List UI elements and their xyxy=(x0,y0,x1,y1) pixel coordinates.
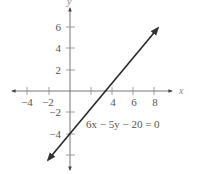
x-tick-label: 6 xyxy=(131,96,137,108)
y-axis-label: y xyxy=(66,0,72,7)
y-axis: 6 4 2 −2 −4 y xyxy=(49,0,75,170)
x-tick-label: 8 xyxy=(152,96,158,108)
y-tick-label: 6 xyxy=(56,21,62,33)
line-graph: −4 −2 4 6 8 x 6 4 2 −2 −4 y 6x − 5y − 20… xyxy=(0,0,198,174)
y-tick-label: −2 xyxy=(49,106,61,118)
y-tick-label: −4 xyxy=(49,128,61,140)
plotted-line xyxy=(48,28,158,160)
y-tick-label: 2 xyxy=(56,64,62,76)
x-axis: −4 −2 4 6 8 x xyxy=(12,85,184,108)
equation-label: 6x − 5y − 20 = 0 xyxy=(86,118,160,130)
x-tick-label: 4 xyxy=(110,96,116,108)
x-tick-label: −4 xyxy=(21,96,33,108)
x-axis-label: x xyxy=(178,85,184,96)
y-tick-label: 4 xyxy=(56,42,62,54)
